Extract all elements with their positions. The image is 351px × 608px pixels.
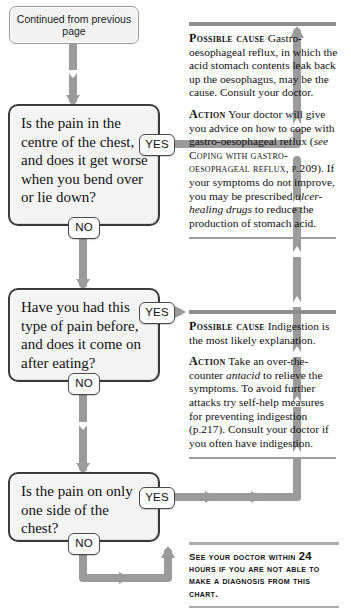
panel-1-action-lead: Action	[189, 107, 226, 121]
arrowhead-right-q3-a	[205, 491, 216, 503]
arrowhead-right-q3-no	[119, 572, 130, 584]
panel-2-cause: Possible cause Indigestion is the most l…	[189, 320, 339, 347]
q2-yes-label: YES	[145, 307, 169, 319]
arrowhead-right-panel2	[175, 306, 186, 318]
panel-1-action: Action Your doctor will give you advice …	[189, 108, 339, 230]
panel-1-xref-page: p.209	[292, 162, 318, 174]
notch-continued	[66, 70, 80, 78]
notch-q2-no	[76, 422, 90, 430]
panel-2-cause-lead: Possible cause	[189, 319, 265, 333]
question-2-text: Have you had this type of pain before, a…	[21, 299, 141, 371]
continued-from-previous-page-box: Continued from previous page	[9, 6, 139, 44]
continued-label: Continued from previous page	[10, 13, 138, 38]
warning-text: See your doctor within 24 hours if you a…	[189, 550, 341, 600]
question-box-3: Is the pain on only one side of the ches…	[8, 472, 160, 542]
arrowhead-right-q3-b	[251, 491, 262, 503]
panel-2-action-italic: antacid	[226, 369, 260, 381]
panel-2-top-rule	[189, 310, 336, 314]
panel-1-top-rule	[189, 22, 336, 26]
q1-yes-tag[interactable]: YES	[139, 134, 175, 156]
answer-panel-1: Possible cause Gastro-oesophageal reflux…	[189, 22, 339, 239]
notch-spine-2	[290, 246, 304, 257]
panel-2-bottom-rule	[189, 457, 336, 459]
warning-hours-number: 24	[299, 550, 312, 562]
q2-no-label: NO	[75, 378, 93, 390]
panel-1-xref: Coping with gastro-oesophageal reflux,	[189, 149, 289, 175]
panel-1-cause: Possible cause Gastro-oesophageal reflux…	[189, 32, 339, 100]
q3-no-label: NO	[75, 538, 93, 550]
q3-yes-label: YES	[145, 492, 169, 504]
q1-yes-label: YES	[145, 139, 169, 151]
notch-spine-3	[290, 296, 304, 307]
question-box-1: Is the pain in the centre of the chest, …	[8, 104, 160, 226]
panel-1-bottom-rule	[189, 237, 336, 239]
question-3-text: Is the pain on only one side of the ches…	[21, 483, 133, 536]
warning-line1-strong: See your doctor within	[189, 551, 296, 562]
panel-1-see: see	[314, 135, 329, 147]
q1-no-label: NO	[75, 222, 93, 234]
q2-yes-tag[interactable]: YES	[139, 302, 175, 324]
warning-top-rule	[189, 542, 339, 545]
q3-yes-tag[interactable]: YES	[139, 487, 175, 509]
question-box-2: Have you had this type of pain before, a…	[8, 288, 160, 382]
warning-line1-rest: hours	[189, 563, 216, 574]
q3-no-tag[interactable]: NO	[68, 533, 100, 555]
arrowhead-up-warning	[161, 546, 175, 558]
answer-panel-2: Possible cause Indigestion is the most l…	[189, 310, 339, 459]
q1-no-tag[interactable]: NO	[68, 217, 100, 239]
q2-no-tag[interactable]: NO	[68, 373, 100, 395]
warning-box: See your doctor within 24 hours if you a…	[189, 542, 341, 608]
panel-2-action: Action Take an over-the-counter antacid …	[189, 355, 339, 450]
panel-2-action-lead: Action	[189, 354, 226, 368]
panel-1-cause-lead: Possible cause	[189, 31, 265, 45]
question-1-text: Is the pain in the centre of the chest, …	[21, 115, 148, 205]
